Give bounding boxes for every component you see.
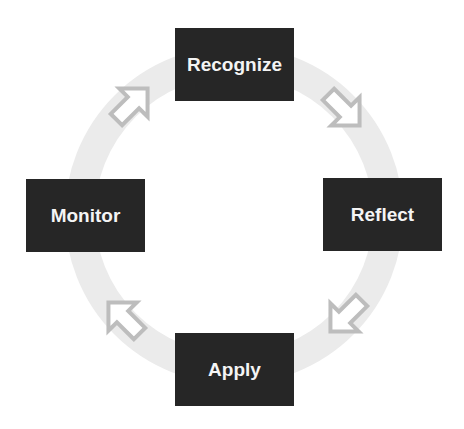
step-label: Apply xyxy=(208,359,261,381)
step-label: Monitor xyxy=(51,205,121,227)
step-apply: Apply xyxy=(175,333,294,406)
step-monitor: Monitor xyxy=(26,179,145,252)
arrow-icon-monitor-to-recognize xyxy=(104,76,160,132)
step-label: Recognize xyxy=(187,54,282,76)
arrow-icon-reflect-to-apply xyxy=(318,288,374,344)
arrow-icon-recognize-to-reflect xyxy=(316,82,372,138)
step-recognize: Recognize xyxy=(175,28,294,101)
arrow-icon-apply-to-monitor xyxy=(96,290,152,346)
step-reflect: Reflect xyxy=(323,178,442,251)
step-label: Reflect xyxy=(351,204,414,226)
